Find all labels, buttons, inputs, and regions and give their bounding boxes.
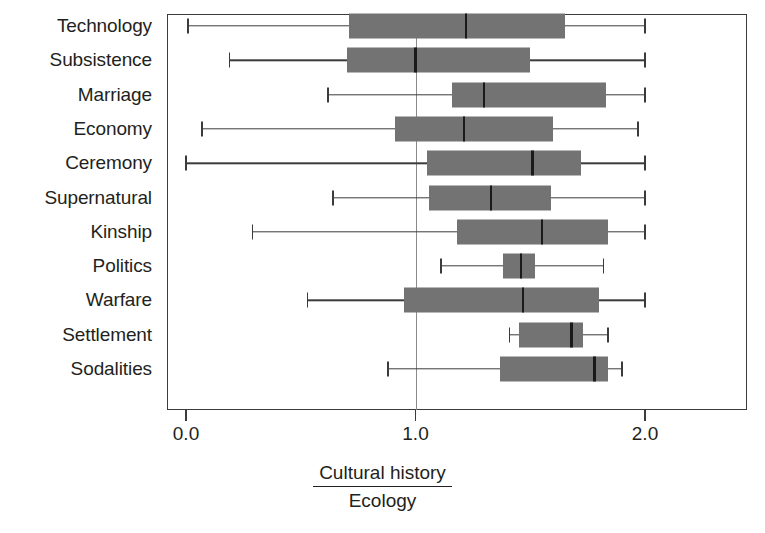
whisker-high-cap <box>644 156 646 171</box>
median-line <box>541 219 543 244</box>
whisker-high-line <box>599 300 645 301</box>
whisker-low-cap <box>332 190 334 205</box>
whisker-high-line <box>535 265 604 266</box>
whisker-low-line <box>188 25 349 26</box>
whisker-low-line <box>308 300 404 301</box>
boxplot-row <box>0 114 765 144</box>
x-axis-title: Cultural history Ecology <box>0 462 765 512</box>
axis-title-denominator: Ecology <box>313 487 452 512</box>
box-iqr <box>347 48 531 73</box>
whisker-low-cap <box>307 293 309 308</box>
whisker-high-line <box>551 197 645 198</box>
median-line <box>570 322 572 347</box>
whisker-low-cap <box>187 19 189 34</box>
x-axis-ticks: 0.01.02.0 <box>0 410 765 422</box>
axis-title-fraction: Cultural history Ecology <box>313 462 452 512</box>
whisker-high-line <box>565 25 645 26</box>
boxplot-row <box>0 45 765 75</box>
boxplot-row <box>0 354 765 384</box>
whisker-high-cap <box>607 327 609 342</box>
box-iqr <box>500 357 608 382</box>
boxplot-row <box>0 251 765 281</box>
median-line <box>414 48 416 73</box>
box-iqr <box>349 14 565 39</box>
whisker-high-cap <box>637 121 639 136</box>
x-tick-label: 1.0 <box>402 424 428 444</box>
whisker-low-line <box>388 368 500 369</box>
whisker-low-line <box>441 265 503 266</box>
median-line <box>531 151 533 176</box>
whisker-high-line <box>606 94 645 95</box>
whisker-high-line <box>608 368 622 369</box>
median-line <box>483 82 485 107</box>
whisker-high-line <box>581 162 645 163</box>
box-iqr <box>452 82 606 107</box>
median-line <box>463 116 465 141</box>
box-iqr <box>395 116 553 141</box>
boxplot-row <box>0 183 765 213</box>
whisker-low-cap <box>440 259 442 274</box>
box-iqr <box>427 151 581 176</box>
boxplot-row <box>0 80 765 110</box>
whisker-high-cap <box>644 53 646 68</box>
whisker-high-line <box>553 128 638 129</box>
whisker-low-line <box>186 162 427 163</box>
whisker-low-line <box>253 231 457 232</box>
x-tick <box>644 410 645 421</box>
x-tick-label: 0.0 <box>173 424 199 444</box>
boxplot-row <box>0 148 765 178</box>
whisker-low-cap <box>185 156 187 171</box>
whisker-high-cap <box>603 259 605 274</box>
whisker-low-line <box>510 334 519 335</box>
median-line <box>465 14 467 39</box>
boxplot-row <box>0 11 765 41</box>
whisker-high-cap <box>644 293 646 308</box>
whisker-high-line <box>608 231 645 232</box>
whisker-low-cap <box>252 224 254 239</box>
boxplot-row <box>0 217 765 247</box>
box-iqr <box>404 288 599 313</box>
whisker-high-cap <box>644 190 646 205</box>
whisker-low-line <box>328 94 452 95</box>
box-iqr <box>503 254 535 279</box>
whisker-low-cap <box>387 362 389 377</box>
whisker-low-line <box>202 128 395 129</box>
whisker-low-cap <box>201 121 203 136</box>
whisker-high-cap <box>644 87 646 102</box>
boxplot-row <box>0 285 765 315</box>
whisker-low-cap <box>509 327 511 342</box>
whisker-high-cap <box>621 362 623 377</box>
median-line <box>522 288 524 313</box>
whisker-high-cap <box>644 224 646 239</box>
axis-title-numerator: Cultural history <box>313 462 452 487</box>
whisker-low-cap <box>229 53 231 68</box>
x-tick <box>185 410 186 421</box>
box-iqr <box>519 322 583 347</box>
boxplot-row <box>0 320 765 350</box>
whisker-high-line <box>530 60 645 61</box>
whisker-low-line <box>333 197 429 198</box>
whisker-low-line <box>230 60 347 61</box>
median-line <box>490 185 492 210</box>
x-tick <box>415 410 416 421</box>
whisker-high-cap <box>644 19 646 34</box>
whisker-low-cap <box>327 87 329 102</box>
x-tick-label: 2.0 <box>632 424 658 444</box>
whisker-high-line <box>583 334 608 335</box>
median-line <box>593 357 595 382</box>
median-line <box>520 254 522 279</box>
boxplot-figure: TechnologySubsistenceMarriageEconomyCere… <box>0 0 765 533</box>
box-iqr <box>457 219 608 244</box>
